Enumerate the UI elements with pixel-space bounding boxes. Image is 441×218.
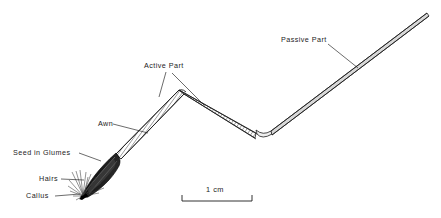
label-passive-part: Passive Part [281, 36, 327, 43]
awn-active-part [116, 90, 257, 159]
awn-edge-inner-lower [121, 94, 184, 159]
label-callus: Callus [26, 192, 49, 199]
awn-valley-bend [256, 130, 272, 137]
scale-bar-caption: 1 cm [206, 186, 224, 193]
leader-callus [55, 194, 80, 196]
awn-edge-inner-upper [184, 94, 256, 139]
seed-awn-diagram: Passive Part Active Part Awn Seed in Glu… [0, 0, 441, 218]
label-hairs: Hairs [39, 175, 58, 182]
awn-passive-part [271, 13, 429, 135]
awn-edge-outer-upper [179, 90, 257, 134]
leader-active-part-left [159, 72, 166, 97]
label-active-part: Active Part [144, 62, 184, 69]
label-seed-in-glumes: Seed in Glumes [13, 149, 70, 156]
label-awn: Awn [98, 120, 113, 127]
passive-edge-upper [271, 13, 427, 131]
leader-seed-in-glumes [79, 153, 101, 161]
awn-lower-limb [116, 90, 184, 159]
scale-bar [182, 195, 252, 201]
passive-limb-band [271, 13, 429, 135]
seed-in-glumes-body [82, 153, 120, 197]
leader-hairs [61, 179, 84, 180]
callus-node [80, 195, 83, 198]
awn-edge-outer-lower [116, 90, 179, 154]
passive-edge-lower [272, 16, 429, 135]
awn-knee-bend [256, 130, 272, 137]
awn-upper-limb [179, 90, 256, 138]
leader-passive-part [328, 44, 358, 68]
